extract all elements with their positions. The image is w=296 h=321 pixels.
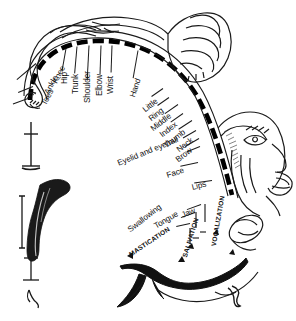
homunculus-drawing <box>0 0 296 321</box>
tongue-and-jaw-figure <box>224 210 267 250</box>
motor-homunculus-figure: ToesAnkleKneeHipTrunkShoulderElbowWristH… <box>0 0 296 321</box>
small-foot-glyph <box>28 290 39 308</box>
label-trunk: Trunk <box>72 74 80 94</box>
forehead-texture <box>224 129 240 168</box>
bracket-glyph <box>228 286 240 307</box>
trunk-shoulder-figure <box>60 17 168 40</box>
label-hip: Hip <box>61 72 69 84</box>
label-wrist: Wrist <box>107 76 115 94</box>
tongue-inset <box>27 179 70 261</box>
label-shoulder: Shoulder <box>84 71 92 103</box>
label-elbow: Elbow <box>96 74 104 96</box>
trunk-inset-scale <box>22 122 40 170</box>
